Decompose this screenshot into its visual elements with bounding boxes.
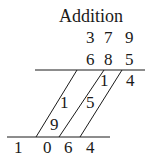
result-hundreds: 0 bbox=[43, 139, 52, 156]
lattice-addition-diagram: Addition 3 7 9 6 8 5 1 4 1 5 9 1 0 6 4 bbox=[0, 0, 151, 160]
partial-sum-3-tens: 1 bbox=[100, 72, 109, 89]
result-thousands: 1 bbox=[14, 139, 23, 156]
result-ones: 4 bbox=[86, 139, 95, 156]
partial-sum-1-ones: 9 bbox=[50, 116, 59, 133]
partial-sum-2-ones: 5 bbox=[86, 94, 95, 111]
partial-sum-1-tens: 1 bbox=[60, 94, 69, 111]
partial-sum-3-ones: 4 bbox=[126, 72, 135, 89]
result-tens: 6 bbox=[64, 139, 73, 156]
